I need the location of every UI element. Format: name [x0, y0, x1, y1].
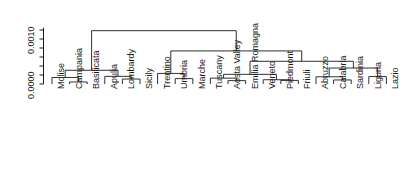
leaf-label: Emilia Romagna	[250, 23, 260, 89]
leaf-label: Calabria	[338, 55, 348, 89]
leaf-label: Trentino	[162, 56, 172, 89]
dendrogram-link	[329, 68, 377, 77]
leaf-label: Lombardy	[126, 49, 136, 89]
leaf-label: Liguria	[373, 62, 383, 89]
leaf-label: Lazio	[390, 67, 400, 89]
leaf-label: Friuli	[302, 70, 312, 90]
leaf-label: Marche	[197, 59, 207, 89]
leaf-label: Umbria	[179, 60, 189, 89]
leaf-label: Campania	[74, 48, 84, 89]
y-axis-tick-label: 0.0000	[26, 71, 36, 99]
leaf-label: Abruzzo	[320, 56, 330, 89]
leaf-label: Apulia	[109, 64, 119, 89]
leaf-label: Tuscany	[214, 55, 224, 89]
leaf-label: Veneto	[267, 61, 277, 89]
dendrogram-canvas	[0, 0, 411, 179]
leaf-label: Piedmont	[285, 51, 295, 89]
y-axis-tick-label: 0.0010	[26, 26, 36, 54]
leaf-label: Sardinia	[355, 56, 365, 89]
leaf-label: Aosta Valley	[232, 40, 242, 89]
y-axis-ticks	[40, 30, 44, 84]
leaf-label: Molise	[56, 63, 66, 89]
leaf-label: Basilicata	[91, 50, 101, 89]
leaf-label: Sicily	[144, 68, 154, 89]
y-axis	[40, 28, 44, 84]
dendrogram-plot: 0.00000.0010 MoliseCampaniaBasilicataApu…	[0, 0, 411, 179]
